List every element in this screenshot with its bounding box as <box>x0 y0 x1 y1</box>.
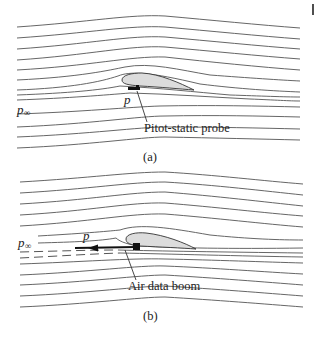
local-pressure-label-b: p <box>82 228 90 243</box>
panel-b: p p ∞ Air data boom (b) <box>17 172 303 323</box>
svg-text:p: p <box>17 235 25 250</box>
leader-line-b <box>125 250 136 280</box>
caption-a: (a) <box>143 150 157 164</box>
svg-text:∞: ∞ <box>24 108 30 118</box>
svg-text:p: p <box>16 102 24 117</box>
local-pressure-label-a: p <box>123 92 131 107</box>
callout-pitot-static-probe: Pitot-static probe <box>144 121 230 135</box>
flow-diagram: p p ∞ Pitot-static probe (a) <box>0 0 316 339</box>
freestream-pressure-label-a: p ∞ <box>16 102 30 118</box>
caption-b: (b) <box>143 309 158 323</box>
panel-a: p p ∞ Pitot-static probe (a) <box>16 16 300 164</box>
freestream-pressure-label-b: p ∞ <box>17 235 31 251</box>
callout-air-data-boom: Air data boom <box>128 279 200 293</box>
svg-text:∞: ∞ <box>25 241 31 251</box>
